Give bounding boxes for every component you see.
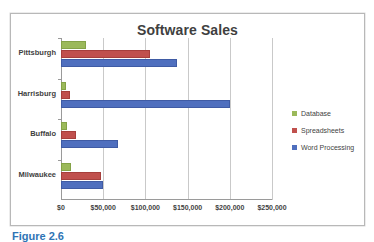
bar[interactable]: [61, 140, 118, 148]
x-axis-tick-label: $150,000: [173, 204, 202, 211]
bar[interactable]: [61, 100, 230, 108]
x-axis-tick-label: $0: [57, 204, 65, 211]
bar[interactable]: [61, 50, 150, 58]
bar[interactable]: [61, 172, 101, 180]
x-axis-tick-labels: $0$50,000$100,000$150,000$200,000$250,00…: [61, 204, 272, 218]
bar[interactable]: [61, 41, 86, 49]
y-axis-tick: [58, 119, 61, 120]
chart-legend: DatabaseSpreadsheetsWord Processing: [292, 106, 364, 157]
legend-item[interactable]: Database: [292, 106, 364, 120]
category-label: Milwaukee: [0, 170, 56, 179]
y-axis-tick: [58, 79, 61, 80]
bar[interactable]: [61, 91, 70, 99]
y-axis-tick: [58, 160, 61, 161]
legend-label: Word Processing: [301, 144, 354, 151]
legend-square-marker-icon: [292, 128, 297, 133]
plot-area: PittsburghHarrisburgBuffaloMilwaukee: [61, 38, 272, 200]
bar-group: Pittsburgh: [61, 38, 272, 79]
figure-caption: Figure 2.6: [12, 230, 64, 242]
bar-group: Milwaukee: [61, 160, 272, 201]
legend-item[interactable]: Spreadsheets: [292, 123, 364, 137]
gridline: [272, 38, 273, 200]
bar[interactable]: [61, 181, 103, 189]
bar[interactable]: [61, 82, 66, 90]
legend-square-marker-icon: [292, 111, 297, 116]
x-axis-tick-label: $200,000: [215, 204, 244, 211]
legend-label: Spreadsheets: [301, 127, 344, 134]
chart-frame: Software Sales PittsburghHarrisburgBuffa…: [10, 13, 365, 226]
bar[interactable]: [61, 122, 67, 130]
x-axis-tick-label: $250,000: [257, 204, 286, 211]
bar[interactable]: [61, 163, 71, 171]
bar[interactable]: [61, 131, 76, 139]
legend-item[interactable]: Word Processing: [292, 140, 364, 154]
category-label: Harrisburg: [0, 89, 56, 98]
category-label: Buffalo: [0, 129, 56, 138]
bar-group: Buffalo: [61, 119, 272, 160]
y-axis-tick: [58, 38, 61, 39]
legend-square-marker-icon: [292, 145, 297, 150]
bar-group: Harrisburg: [61, 79, 272, 120]
bar[interactable]: [61, 59, 177, 67]
x-axis-tick-label: $100,000: [131, 204, 160, 211]
category-label: Pittsburgh: [0, 48, 56, 57]
legend-label: Database: [301, 110, 331, 117]
chart-title: Software Sales: [11, 22, 364, 38]
x-axis-tick-label: $50,000: [91, 204, 116, 211]
